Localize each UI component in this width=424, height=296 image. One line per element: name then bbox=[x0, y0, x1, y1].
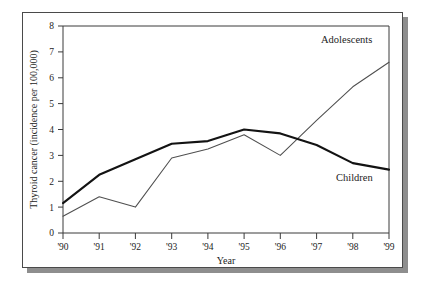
y-tick-label-2: 2 bbox=[49, 177, 54, 187]
y-axis-ticks bbox=[58, 26, 63, 233]
line-chart-svg: 0 1 2 3 4 5 6 7 8 bbox=[23, 13, 402, 267]
x-axis-ticks bbox=[63, 233, 389, 239]
x-tick-label-98: '98 bbox=[347, 242, 358, 252]
x-tick-label-93: '93 bbox=[166, 242, 177, 252]
x-axis-tick-labels: '90 '91 '92 '93 '94 '95 '96 '97 '98 '99 bbox=[57, 242, 394, 252]
series-label-children: Children bbox=[336, 172, 373, 183]
y-tick-label-8: 8 bbox=[49, 21, 54, 31]
figure-root: 0 1 2 3 4 5 6 7 8 bbox=[0, 0, 424, 296]
series-label-adolescents: Adolescents bbox=[321, 34, 372, 45]
series-line-adolescents bbox=[63, 62, 389, 216]
x-tick-label-99: '99 bbox=[383, 242, 394, 252]
x-axis-title: Year bbox=[217, 255, 236, 266]
y-tick-label-7: 7 bbox=[49, 47, 54, 57]
x-tick-label-97: '97 bbox=[311, 242, 322, 252]
x-tick-label-90: '90 bbox=[57, 242, 68, 252]
y-axis-tick-labels: 0 1 2 3 4 5 6 7 8 bbox=[49, 21, 54, 238]
x-tick-label-94: '94 bbox=[202, 242, 213, 252]
y-tick-label-5: 5 bbox=[49, 99, 54, 109]
y-tick-label-1: 1 bbox=[49, 203, 54, 213]
y-axis-title: Thyroid cancer (incidence per 100,000) bbox=[28, 50, 40, 209]
x-tick-label-96: '96 bbox=[275, 242, 286, 252]
y-tick-label-6: 6 bbox=[49, 73, 54, 83]
y-tick-label-0: 0 bbox=[49, 228, 54, 238]
y-tick-label-4: 4 bbox=[49, 125, 54, 135]
series-line-children bbox=[63, 130, 389, 204]
y-tick-label-3: 3 bbox=[49, 151, 54, 161]
x-tick-label-95: '95 bbox=[238, 242, 249, 252]
chart-card: 0 1 2 3 4 5 6 7 8 bbox=[22, 12, 403, 268]
plot-frame bbox=[63, 26, 389, 233]
x-tick-label-92: '92 bbox=[130, 242, 141, 252]
x-tick-label-91: '91 bbox=[94, 242, 105, 252]
